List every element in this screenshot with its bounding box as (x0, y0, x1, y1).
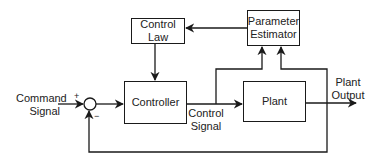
control-law-block: Control Law (131, 18, 185, 44)
control-signal-line1: Control (186, 107, 226, 120)
summing-junction (84, 98, 96, 110)
parameter-estimator-label-line2: Estimator (248, 28, 299, 41)
control-signal-label: Control Signal (186, 107, 226, 133)
parameter-estimator-label-line1: Parameter (248, 15, 299, 28)
minus-sign: − (94, 112, 99, 121)
control-law-label-line2: Law (140, 31, 175, 44)
plant-output-label: Plant Output (328, 76, 368, 102)
controller-label: Controller (132, 96, 180, 109)
plant-output-line2: Output (328, 89, 368, 102)
controller-block: Controller (124, 81, 187, 124)
plant-output-line1: Plant (328, 76, 368, 89)
plus-sign: + (74, 92, 79, 101)
adaptive-control-diagram: Control Law Parameter Estimator Controll… (0, 0, 376, 162)
plant-label: Plant (262, 95, 287, 108)
control-law-label-line1: Control (140, 18, 175, 31)
connector-lines (0, 0, 376, 162)
plant-block: Plant (243, 81, 306, 122)
command-signal-label: Command Signal (16, 92, 66, 118)
command-signal-line2: Signal (16, 105, 66, 118)
parameter-estimator-block: Parameter Estimator (247, 10, 300, 46)
command-signal-line1: Command (16, 92, 66, 105)
control-signal-line2: Signal (186, 120, 226, 133)
